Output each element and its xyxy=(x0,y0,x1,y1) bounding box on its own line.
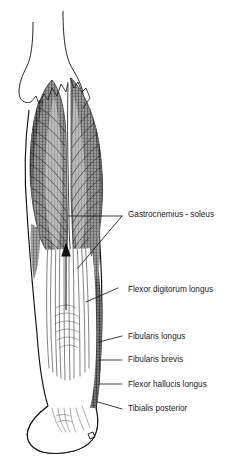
label-tibialis-posterior: Tibialis posterior xyxy=(128,404,188,413)
thigh-left-contour xyxy=(19,22,33,103)
labels-group: Gastrocnemius - soleus Flexor digitorum … xyxy=(128,210,214,413)
calcaneus-outline xyxy=(27,406,97,453)
calcaneus-group xyxy=(27,406,97,453)
label-fibularis-longus: Fibularis longus xyxy=(128,332,185,341)
label-flexor-hallucis-longus: Flexor hallucis longus xyxy=(128,380,207,389)
label-fibularis-brevis: Fibularis brevis xyxy=(128,355,183,364)
label-flexor-digitorum-longus: Flexor digitorum longus xyxy=(128,285,213,294)
anatomy-illustration: Gastrocnemius - soleus Flexor digitorum … xyxy=(0,0,246,459)
label-gastrocnemius-soleus: Gastrocnemius - soleus xyxy=(128,210,214,219)
leader-tibialis-posterior xyxy=(98,402,122,409)
leader-fibularis-longus xyxy=(99,336,122,342)
